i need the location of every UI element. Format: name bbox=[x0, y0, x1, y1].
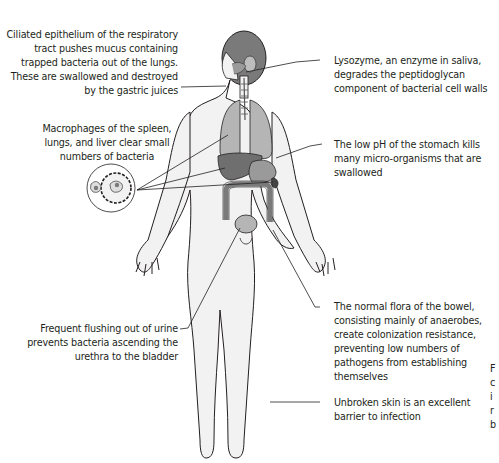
macrophage-inset bbox=[87, 164, 135, 212]
label-urine: Frequent flushing out of urine prevents … bbox=[0, 322, 178, 364]
label-stomach: The low pH of the stomach kills many mic… bbox=[334, 138, 499, 180]
label-respiratory: Ciliated epithelium of the respiratory t… bbox=[0, 28, 178, 98]
label-bowel: The normal flora of the bowel, consistin… bbox=[334, 300, 494, 384]
clipped-text-5: b bbox=[490, 418, 499, 432]
label-skin: Unbroken skin is an excellent barrier to… bbox=[334, 396, 494, 424]
clipped-text-2: c bbox=[490, 376, 499, 390]
leader-respiratory bbox=[181, 86, 226, 87]
label-lysozyme: Lysozyme, an enzyme in saliva, degrades … bbox=[334, 54, 499, 96]
trachea bbox=[241, 78, 248, 120]
right-arm bbox=[272, 112, 335, 276]
clipped-text-3: i bbox=[490, 390, 499, 404]
bladder bbox=[235, 215, 257, 233]
label-macrophages: Macrophages of the spleen, lungs, and li… bbox=[32, 122, 182, 164]
clipped-text-1: F bbox=[490, 362, 499, 376]
clipped-text-4: r bbox=[490, 404, 499, 418]
